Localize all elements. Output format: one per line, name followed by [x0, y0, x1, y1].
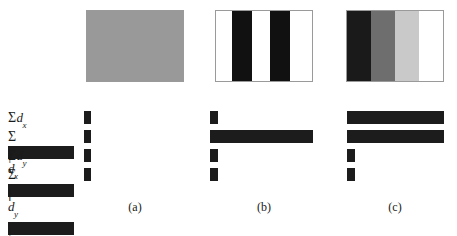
bar	[347, 130, 444, 143]
patch-stripe	[290, 11, 312, 81]
row-label-subscript: x	[22, 120, 26, 130]
patch-stripe	[347, 11, 371, 81]
bar-row	[84, 146, 91, 165]
bar	[210, 130, 313, 143]
row-label-sum-dx: Σdx	[8, 108, 74, 127]
bar	[84, 111, 91, 124]
bar-row	[84, 165, 91, 184]
bar-row	[84, 127, 91, 146]
image-patch-c	[346, 10, 444, 82]
image-patch-a	[86, 10, 184, 82]
bar	[347, 149, 355, 162]
patch-stripe	[270, 11, 290, 81]
abs-bar-icon: |	[8, 184, 74, 197]
sigma-icon: Σ	[8, 129, 16, 144]
bar	[84, 130, 91, 143]
bar-row	[347, 127, 444, 146]
bar	[210, 168, 218, 181]
bar-row	[84, 108, 91, 127]
row-label-sum-dy: Σdy	[8, 146, 74, 165]
bar-chart-b	[210, 108, 313, 184]
patch-stripe	[87, 11, 183, 81]
row-label-list: Σdx Σ|dx| Σdy Σ|dy|	[8, 108, 74, 184]
patch-stripe	[252, 11, 269, 81]
bar-chart-a	[84, 108, 91, 184]
row-label-subscript: y	[14, 209, 18, 219]
abs-bar-icon: |	[8, 222, 74, 235]
bar	[210, 149, 218, 162]
caption-b: (b)	[215, 200, 313, 215]
bar	[84, 149, 91, 162]
bar-row	[210, 165, 313, 184]
bar-row	[210, 146, 313, 165]
patch-stripe	[232, 11, 252, 81]
row-label-subscript: x	[14, 171, 18, 181]
bar-row	[210, 108, 313, 127]
bar-row	[347, 108, 444, 127]
bar	[347, 111, 444, 124]
bar-row	[210, 127, 313, 146]
patch-stripe	[216, 11, 232, 81]
figure-panel: Σdx Σ|dx| Σdy Σ|dy| (a) (b) (c)	[0, 0, 457, 236]
image-patch-b	[215, 10, 313, 82]
patch-stripe	[395, 11, 419, 81]
row-label-sum-abs-dx: Σ|dx|	[8, 127, 74, 146]
bar-chart-c	[347, 108, 444, 184]
caption-c: (c)	[346, 200, 444, 215]
caption-a: (a)	[86, 200, 184, 215]
row-label-subscript: y	[22, 158, 26, 168]
bar	[347, 168, 355, 181]
patch-stripe	[371, 11, 395, 81]
patch-stripe	[419, 11, 443, 81]
bar	[84, 168, 91, 181]
bar	[210, 111, 218, 124]
bar-row	[347, 146, 444, 165]
bar-row	[347, 165, 444, 184]
